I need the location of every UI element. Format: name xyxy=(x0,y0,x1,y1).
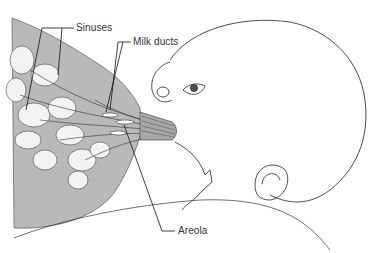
breastfeeding-illustration xyxy=(0,0,375,253)
nipple xyxy=(140,112,177,140)
label-areola: Areola xyxy=(178,225,208,236)
label-sinuses: Sinuses xyxy=(76,22,112,33)
baby-head xyxy=(152,20,366,210)
label-milk-ducts: Milk ducts xyxy=(133,36,178,47)
